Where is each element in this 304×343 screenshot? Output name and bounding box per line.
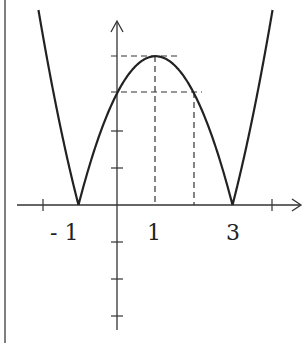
- x-label-three: 3: [226, 220, 240, 245]
- x-axis: [17, 199, 301, 211]
- x-label-one: 1: [147, 220, 161, 245]
- function-graph: - 1 1 3: [0, 0, 304, 343]
- x-label-neg-one: - 1: [50, 220, 78, 245]
- y-axis: [111, 21, 123, 330]
